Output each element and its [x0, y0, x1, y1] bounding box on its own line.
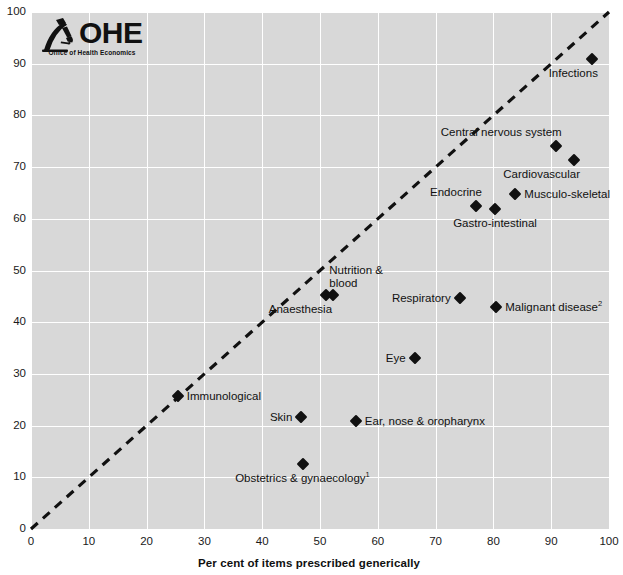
x-tick-label: 100 [589, 536, 623, 548]
x-tick-label: 30 [184, 536, 224, 548]
y-tick-label: 0 [0, 523, 26, 535]
x-tick-label: 10 [69, 536, 109, 548]
y-tick-label: 80 [0, 109, 26, 121]
y-tick-label: 90 [0, 58, 26, 70]
x-tick-label: 0 [11, 536, 51, 548]
y-tick-label: 40 [0, 316, 26, 328]
x-tick-label: 40 [242, 536, 282, 548]
y-tick-label: 30 [0, 368, 26, 380]
y-tick-label: 60 [0, 213, 26, 225]
y-tick-label: 10 [0, 471, 26, 483]
x-tick-label: 20 [127, 536, 167, 548]
x-axis-title: Per cent of items prescribed generically [0, 557, 618, 569]
y-tick-label: 50 [0, 265, 26, 277]
y-tick-label: 100 [0, 6, 26, 18]
x-tick-label: 60 [358, 536, 398, 548]
x-tick-label: 50 [300, 536, 340, 548]
y-tick-label: 20 [0, 420, 26, 432]
x-tick-label: 90 [531, 536, 571, 548]
x-tick-label: 80 [473, 536, 513, 548]
x-tick-label: 70 [416, 536, 456, 548]
y-tick-label: 70 [0, 161, 26, 173]
